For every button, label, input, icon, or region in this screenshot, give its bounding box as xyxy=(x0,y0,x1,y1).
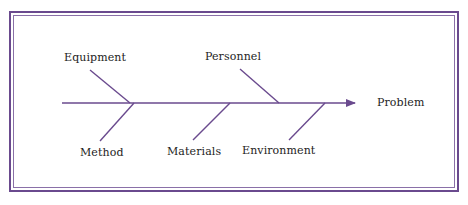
bone-environment xyxy=(289,103,325,140)
bone-materials xyxy=(193,103,230,140)
bone-method xyxy=(100,103,134,141)
bone-equipment xyxy=(90,70,130,103)
cause-label-environment: Environment xyxy=(242,145,315,156)
cause-label-personnel: Personnel xyxy=(205,51,261,62)
cause-label-equipment: Equipment xyxy=(64,52,126,63)
bone-personnel xyxy=(240,69,279,103)
cause-label-method: Method xyxy=(80,147,124,158)
effect-label-problem: Problem xyxy=(377,97,424,108)
cause-label-materials: Materials xyxy=(167,146,221,157)
